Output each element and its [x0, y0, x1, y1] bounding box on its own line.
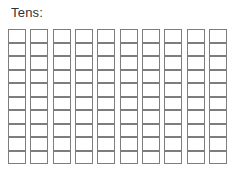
tens-rod[interactable] [75, 29, 93, 164]
rod-cell[interactable] [97, 43, 115, 57]
rod-cell[interactable] [30, 43, 48, 57]
rod-cell[interactable] [53, 70, 71, 84]
rod-cell[interactable] [209, 137, 227, 151]
rod-cell[interactable] [209, 83, 227, 97]
rod-cell[interactable] [75, 29, 93, 43]
rod-cell[interactable] [120, 43, 138, 57]
rod-cell[interactable] [209, 110, 227, 124]
rod-cell[interactable] [187, 83, 205, 97]
rod-cell[interactable] [75, 97, 93, 111]
rod-cell[interactable] [209, 124, 227, 138]
rod-cell[interactable] [120, 137, 138, 151]
rod-cell[interactable] [120, 29, 138, 43]
rod-cell[interactable] [120, 97, 138, 111]
rod-cell[interactable] [187, 151, 205, 165]
tens-rod[interactable] [53, 29, 71, 164]
rod-cell[interactable] [209, 70, 227, 84]
rod-cell[interactable] [164, 110, 182, 124]
rod-cell[interactable] [30, 70, 48, 84]
rod-cell[interactable] [53, 56, 71, 70]
rod-cell[interactable] [53, 110, 71, 124]
rod-cell[interactable] [187, 124, 205, 138]
rod-cell[interactable] [75, 70, 93, 84]
rod-cell[interactable] [97, 83, 115, 97]
rod-cell[interactable] [30, 97, 48, 111]
rod-cell[interactable] [187, 43, 205, 57]
rod-cell[interactable] [142, 29, 160, 43]
rod-cell[interactable] [53, 137, 71, 151]
rod-cell[interactable] [53, 29, 71, 43]
rod-cell[interactable] [164, 29, 182, 43]
rod-cell[interactable] [120, 110, 138, 124]
rod-cell[interactable] [8, 97, 26, 111]
rod-cell[interactable] [187, 110, 205, 124]
rod-cell[interactable] [30, 151, 48, 165]
tens-rod[interactable] [120, 29, 138, 164]
rod-cell[interactable] [142, 110, 160, 124]
rod-cell[interactable] [8, 70, 26, 84]
rod-cell[interactable] [142, 83, 160, 97]
rod-cell[interactable] [209, 97, 227, 111]
rod-cell[interactable] [142, 97, 160, 111]
rod-cell[interactable] [8, 137, 26, 151]
rod-cell[interactable] [30, 56, 48, 70]
tens-rod[interactable] [142, 29, 160, 164]
rod-cell[interactable] [142, 56, 160, 70]
rod-cell[interactable] [120, 70, 138, 84]
rod-cell[interactable] [30, 110, 48, 124]
rod-cell[interactable] [142, 70, 160, 84]
rod-cell[interactable] [75, 151, 93, 165]
rod-cell[interactable] [8, 110, 26, 124]
rod-cell[interactable] [164, 56, 182, 70]
tens-rod[interactable] [97, 29, 115, 164]
rod-cell[interactable] [164, 151, 182, 165]
rod-cell[interactable] [187, 70, 205, 84]
rod-cell[interactable] [142, 43, 160, 57]
rod-cell[interactable] [97, 124, 115, 138]
rod-cell[interactable] [120, 124, 138, 138]
rod-cell[interactable] [120, 83, 138, 97]
rod-cell[interactable] [209, 43, 227, 57]
rod-cell[interactable] [97, 151, 115, 165]
rod-cell[interactable] [30, 137, 48, 151]
rod-cell[interactable] [164, 137, 182, 151]
rod-cell[interactable] [187, 137, 205, 151]
rod-cell[interactable] [142, 151, 160, 165]
rod-cell[interactable] [8, 29, 26, 43]
rod-cell[interactable] [97, 137, 115, 151]
rod-cell[interactable] [53, 43, 71, 57]
rod-cell[interactable] [53, 83, 71, 97]
rod-cell[interactable] [75, 110, 93, 124]
rod-cell[interactable] [75, 43, 93, 57]
rod-cell[interactable] [209, 29, 227, 43]
rod-cell[interactable] [142, 137, 160, 151]
rod-cell[interactable] [30, 124, 48, 138]
rod-cell[interactable] [8, 83, 26, 97]
rod-cell[interactable] [164, 83, 182, 97]
rod-cell[interactable] [97, 56, 115, 70]
rod-cell[interactable] [187, 97, 205, 111]
rod-cell[interactable] [120, 56, 138, 70]
tens-rod[interactable] [30, 29, 48, 164]
rod-cell[interactable] [97, 97, 115, 111]
tens-rod[interactable] [8, 29, 26, 164]
rod-cell[interactable] [120, 151, 138, 165]
rod-cell[interactable] [53, 151, 71, 165]
rod-cell[interactable] [75, 83, 93, 97]
tens-rod[interactable] [164, 29, 182, 164]
rod-cell[interactable] [8, 151, 26, 165]
rod-cell[interactable] [8, 124, 26, 138]
rod-cell[interactable] [75, 56, 93, 70]
rod-cell[interactable] [187, 29, 205, 43]
rod-cell[interactable] [97, 110, 115, 124]
tens-rod[interactable] [209, 29, 227, 164]
rod-cell[interactable] [164, 70, 182, 84]
rod-cell[interactable] [8, 56, 26, 70]
rod-cell[interactable] [30, 83, 48, 97]
rod-cell[interactable] [97, 70, 115, 84]
tens-rod[interactable] [187, 29, 205, 164]
rod-cell[interactable] [164, 97, 182, 111]
rod-cell[interactable] [97, 29, 115, 43]
rod-cell[interactable] [164, 124, 182, 138]
rod-cell[interactable] [53, 97, 71, 111]
